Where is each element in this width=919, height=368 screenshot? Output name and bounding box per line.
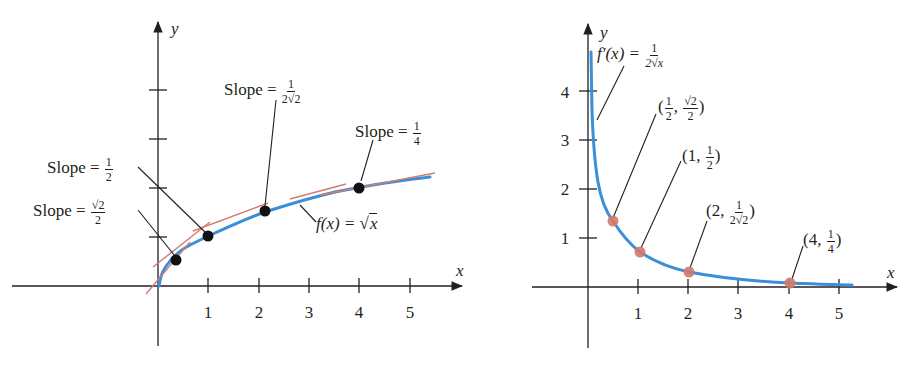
left-panel [12,22,462,346]
right-x-axis-label: x [887,264,895,281]
point-b [203,231,214,242]
left-x-axis-label: x [456,262,464,279]
left-x-tick-2: 2 [252,304,266,321]
left-x-tick-4: 4 [352,304,366,321]
derivative-function-label: f′(x) = 12√x [597,42,664,69]
left-x-tick-5: 5 [403,304,417,321]
left-x-tick-3: 3 [302,304,316,321]
slope-label-one-over-2sqrt2: Slope = 12√2 [224,78,301,105]
point-half [608,216,619,227]
left-x-tick-1: 1 [201,304,215,321]
point-label-half: (12, √22) [658,95,704,122]
right-x-tick-2: 2 [681,305,695,322]
point-a [171,255,182,266]
right-panel [532,24,897,348]
sqrt-curve [159,177,430,286]
right-x-tick-1: 1 [631,305,645,322]
slope-label-one-quarter: Slope = 14 [355,120,422,147]
tangent-lines [146,173,435,294]
point-label-four: (4, 14) [803,228,841,255]
right-x-tick-4: 4 [782,305,796,322]
left-y-axis-label: y [171,20,179,37]
right-x-tick-3: 3 [731,305,745,322]
right-y-tick-3: 3 [558,132,572,149]
derivative-points [608,216,796,289]
point-label-one: (1, 12) [682,144,720,171]
function-label-sqrt: f(x) = √x [316,215,377,232]
point-label-two: (2, 12√2) [706,199,755,226]
tangent-line-5 [320,173,435,195]
point-four [785,278,796,289]
right-y-axis-label: y [600,24,608,41]
slope-label-one-half: Slope = 12 [47,156,114,183]
right-y-tick-4: 4 [558,84,572,101]
right-y-tick-2: 2 [558,181,572,198]
slope-label-sqrt2-over-2: Slope = √22 [33,199,106,226]
point-d [354,183,365,194]
point-c [260,206,271,217]
right-x-tick-5: 5 [832,305,846,322]
point-one [635,247,646,258]
point-two [684,267,695,278]
right-y-tick-1: 1 [558,230,572,247]
